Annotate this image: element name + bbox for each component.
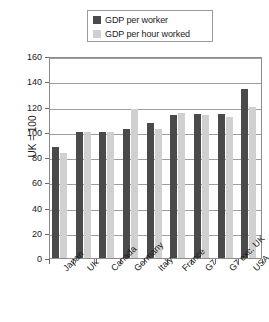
bar — [226, 117, 233, 258]
bar-group — [97, 58, 121, 258]
y-axis-tick-label: 0 — [18, 255, 42, 264]
bar-group — [74, 58, 98, 258]
legend-label-series-0: GDP per worker — [105, 15, 168, 25]
bar — [241, 89, 248, 258]
bar — [147, 123, 154, 258]
bar — [178, 113, 185, 258]
bar-group — [168, 58, 192, 258]
y-axis-tick-label: 120 — [18, 104, 42, 113]
bar — [155, 129, 162, 258]
plot-area — [49, 57, 262, 259]
chart-legend: GDP per worker GDP per hour worked — [87, 10, 213, 42]
legend-item: GDP per worker — [93, 13, 208, 27]
bar — [194, 114, 201, 258]
bar-group — [50, 58, 74, 258]
legend-label-series-1: GDP per hour worked — [105, 29, 190, 39]
legend-swatch-series-1 — [93, 30, 101, 38]
bar — [170, 115, 177, 258]
bar-series-container — [50, 58, 261, 258]
legend-swatch-series-0 — [93, 16, 101, 24]
bar-group — [216, 58, 240, 258]
bar-group — [145, 58, 169, 258]
bar — [202, 115, 209, 258]
bar — [76, 132, 83, 258]
bar — [84, 132, 91, 258]
y-axis-tick-label: 100 — [18, 129, 42, 138]
y-axis-tick-label: 140 — [18, 78, 42, 87]
y-axis-tick-label: 40 — [18, 205, 42, 214]
bar — [107, 132, 114, 258]
x-axis-tick-label: UK — [85, 257, 101, 273]
bar — [99, 132, 106, 258]
bar-group — [192, 58, 216, 258]
bar — [131, 109, 138, 258]
y-axis-tick-label: 20 — [18, 230, 42, 239]
bar-group — [121, 58, 145, 258]
bar-chart: GDP per worker GDP per hour worked UK = … — [0, 0, 269, 322]
bar — [249, 107, 256, 259]
bar — [60, 153, 67, 258]
y-axis-tick-label: 60 — [18, 179, 42, 188]
y-axis-tick-label: 80 — [18, 154, 42, 163]
legend-item: GDP per hour worked — [93, 27, 208, 41]
x-axis-tick-label: G7 — [203, 258, 219, 274]
bar — [123, 129, 130, 258]
bar — [52, 147, 59, 258]
x-axis-tick-mark — [49, 259, 50, 264]
bar — [218, 114, 225, 258]
y-axis-tick-label: 160 — [18, 53, 42, 62]
bar-group — [239, 58, 263, 258]
